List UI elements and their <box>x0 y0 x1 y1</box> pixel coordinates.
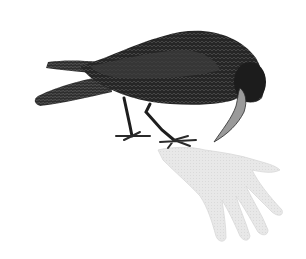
crow-and-glove-illustration <box>0 0 306 259</box>
crow-foot-right <box>160 136 196 148</box>
glove <box>158 147 282 241</box>
crow <box>35 31 266 148</box>
glove-shape <box>158 147 282 241</box>
illustration-canvas <box>0 0 306 259</box>
crow-leg-left <box>124 98 132 136</box>
crow-foot-left <box>116 132 150 140</box>
crow-leg-right <box>146 104 174 140</box>
